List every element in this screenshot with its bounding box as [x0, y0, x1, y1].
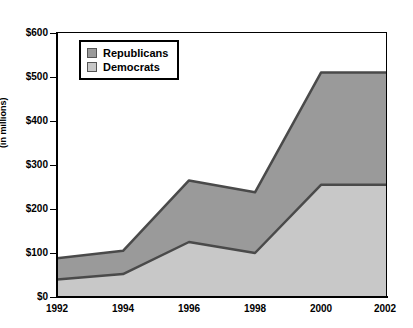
legend-label-democrats: Democrats: [103, 61, 160, 73]
x-tick-label-2002: 2002: [363, 303, 407, 314]
plot-border-right: [386, 32, 387, 298]
plot-border-top: [56, 32, 387, 33]
x-tick-label-2000: 2000: [299, 303, 343, 314]
legend-label-republicans: Republicans: [103, 47, 168, 59]
x-tick-label-1992: 1992: [35, 303, 79, 314]
stacked-area-chart: (in millions) $600 $500 $400 $300 $200 $…: [0, 0, 413, 328]
y-tick-label-500: $500: [0, 72, 48, 82]
legend-item-republicans: Republicans: [87, 46, 168, 60]
x-tick-label-1994: 1994: [101, 303, 145, 314]
y-tick-label-300: $300: [0, 160, 48, 170]
x-tick-label-1996: 1996: [167, 303, 211, 314]
x-tick-label-1998: 1998: [233, 303, 277, 314]
legend-swatch-republicans: [87, 48, 97, 58]
y-tick-label-0: $0: [0, 292, 48, 302]
y-tick-label-400: $400: [0, 116, 48, 126]
y-axis-line: [56, 32, 58, 298]
legend-swatch-democrats: [87, 62, 97, 72]
x-axis-line: [56, 296, 388, 298]
y-tick-label-600: $600: [0, 28, 48, 38]
legend: Republicans Democrats: [79, 40, 179, 80]
y-tick-label-200: $200: [0, 204, 48, 214]
y-tick-label-100: $100: [0, 248, 48, 258]
legend-item-democrats: Democrats: [87, 60, 168, 74]
